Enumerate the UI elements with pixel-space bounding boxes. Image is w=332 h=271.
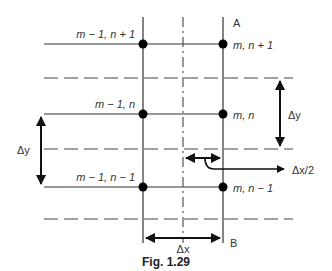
node-m-n-1 [219,183,228,192]
node-label: m, n + 1 [233,39,273,51]
dx-half-leader-line [205,158,284,169]
node-m-1-n+1 [139,40,148,49]
node-label: m, n − 1 [233,182,273,194]
dx-half-label: Δx/2 [292,164,314,176]
node-label: m − 1, n [95,98,135,110]
dy-left-label: Δy [17,144,30,156]
dy-right-label: Δy [288,109,301,121]
dx-label: Δx [177,243,190,255]
node-m-1-n-1 [139,183,148,192]
node-label: m − 1, n − 1 [76,171,135,183]
node-label: m, n [233,109,254,121]
node-label: m − 1, n + 1 [76,28,135,40]
figure-caption: Fig. 1.29 [142,255,190,269]
node-m-1-n [139,110,148,119]
grid-diagram: m − 1, n + 1 m, n + 1 m − 1, n m, n m − … [0,0,332,271]
finite-difference-grid-figure: m − 1, n + 1 m, n + 1 m − 1, n m, n m − … [0,0,332,271]
boundary-label-b: B [230,237,237,249]
node-m-n+1 [219,40,228,49]
node-m-n [219,110,228,119]
boundary-label-a: A [233,17,241,29]
